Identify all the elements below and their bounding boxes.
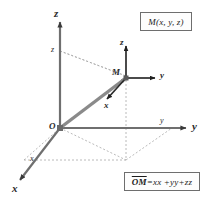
point-m-label: M xyxy=(112,68,120,77)
x-coordinate-tick-label: x xyxy=(30,155,34,163)
projection-guides xyxy=(24,51,172,160)
coordinate-system-diagram: z y x z y x O M z y x M(x, y, z) OM=xx +… xyxy=(0,0,208,203)
x-axis-label: x xyxy=(12,183,18,194)
point-coordinates-callout: M(x, y, z) xyxy=(140,12,192,31)
local-z-axis-label: z xyxy=(120,38,124,47)
local-x-axis-label: x xyxy=(104,101,109,110)
vector-equation-callout: OM=xx +yy+zz xyxy=(124,172,200,191)
vector-om-symbol: OM xyxy=(132,177,147,187)
point-m-marker xyxy=(124,76,129,81)
y-axis-label: y xyxy=(192,121,197,132)
global-axes xyxy=(20,22,186,180)
origin-marker xyxy=(57,125,63,131)
position-vector-om xyxy=(60,78,126,128)
z-coordinate-tick-label: z xyxy=(51,46,54,54)
z-axis-label: z xyxy=(54,8,58,19)
y-coordinate-tick-label: y xyxy=(160,117,164,125)
x-axis-line xyxy=(20,128,60,180)
vector-equation-rhs: =xx +yy+zz xyxy=(147,177,192,187)
local-y-axis-label: y xyxy=(160,71,164,80)
point-coordinates-text: M(x, y, z) xyxy=(148,17,184,27)
origin-label: O xyxy=(49,122,56,131)
